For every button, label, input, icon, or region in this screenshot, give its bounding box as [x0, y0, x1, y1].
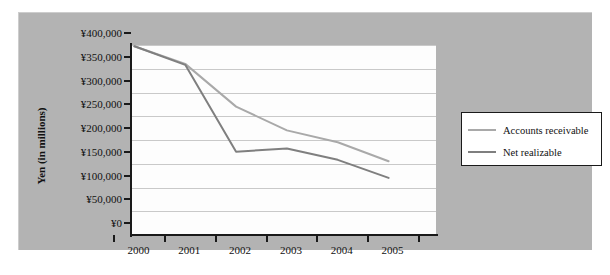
gridline [131, 211, 436, 212]
legend-item[interactable]: Net realizable [468, 144, 562, 160]
x-axis-line [130, 234, 438, 236]
y-axis-tick-label: ¥0 [111, 217, 122, 229]
y-axis-title: Yen (in millions) [35, 86, 47, 206]
y-axis-tick-label: ¥400,000 [81, 27, 122, 39]
x-axis-tick-label: 2004 [331, 244, 353, 256]
gridline [131, 164, 436, 165]
x-axis-tick [418, 235, 420, 242]
legend-item-label: Accounts receivable [503, 125, 588, 136]
gridline [131, 45, 436, 46]
x-axis-tick [367, 235, 369, 242]
gridline [131, 69, 436, 70]
x-axis-tick-label: 2000 [127, 244, 149, 256]
y-axis-tick [124, 80, 131, 82]
y-axis-tick-label: ¥350,000 [81, 51, 122, 63]
x-axis-tick-label: 2003 [280, 244, 302, 256]
legend-item[interactable]: Accounts receivable [468, 122, 588, 138]
legend-swatch-icon [468, 129, 496, 131]
chart-legend: Accounts receivableNet realizable [461, 112, 602, 166]
y-axis-tick [124, 198, 131, 200]
y-axis-tick [124, 151, 131, 153]
x-axis-tick-label: 2002 [229, 244, 251, 256]
x-axis-tick-label: 2001 [178, 244, 200, 256]
y-axis-tick-label: ¥50,000 [86, 193, 122, 205]
chart-figure: ¥0¥50,000¥100,000¥150,000¥200,000¥250,00… [0, 0, 610, 275]
gridline [131, 116, 436, 117]
y-axis-tick-labels: ¥0¥50,000¥100,000¥150,000¥200,000¥250,00… [18, 12, 122, 275]
y-axis-tick [124, 175, 131, 177]
y-axis-tick-label: ¥150,000 [81, 146, 122, 158]
gridline [131, 140, 436, 141]
x-axis-tick [266, 235, 268, 242]
plot-area [131, 45, 436, 235]
x-axis-tick [215, 235, 217, 242]
x-axis-tick-label: 2005 [382, 244, 404, 256]
y-axis-tick [124, 32, 131, 34]
y-axis-tick-label: ¥200,000 [81, 122, 122, 134]
gridline [131, 188, 436, 189]
y-axis-tick-label: ¥100,000 [81, 170, 122, 182]
legend-swatch-icon [468, 151, 496, 153]
legend-item-label: Net realizable [503, 147, 562, 158]
x-axis-tick [316, 235, 318, 242]
y-axis-tick-label: ¥250,000 [81, 98, 122, 110]
y-axis-tick [124, 127, 131, 129]
y-axis-tick-label: ¥300,000 [81, 75, 122, 87]
chart-panel: ¥0¥50,000¥100,000¥150,000¥200,000¥250,00… [18, 12, 592, 250]
gridline [131, 93, 436, 94]
y-axis-tick [124, 56, 131, 58]
y-axis-line [130, 43, 132, 237]
y-axis-tick [124, 222, 131, 224]
x-axis-tick [164, 235, 166, 242]
y-axis-tick [124, 103, 131, 105]
